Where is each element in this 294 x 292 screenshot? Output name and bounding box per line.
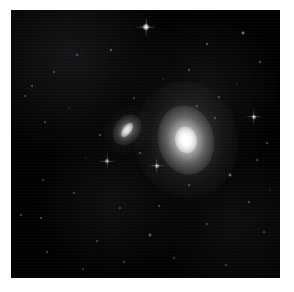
- astronomy-image-plate: [11, 10, 280, 278]
- background-noise: [11, 10, 280, 278]
- image-page: [0, 0, 294, 292]
